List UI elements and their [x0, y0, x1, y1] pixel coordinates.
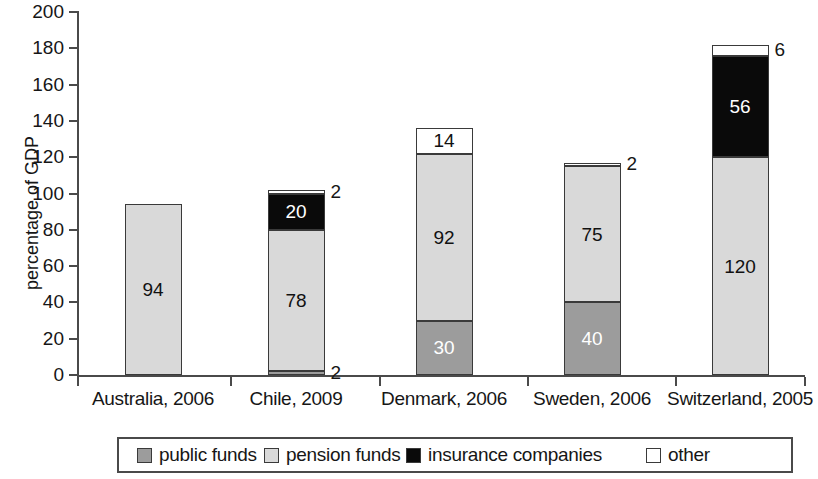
y-axis-tick-label: 140 [0, 110, 64, 132]
legend-item-public[interactable]: public funds [137, 444, 257, 466]
segment-value-label: 30 [433, 338, 454, 357]
segment-value-label: 2 [331, 363, 342, 382]
y-axis-tick-label: 20 [0, 328, 64, 350]
segment-value-label: 2 [627, 154, 638, 173]
x-axis-tick [230, 377, 232, 386]
bar-segment-other[interactable] [712, 45, 769, 56]
plot-area: 947820309214407512056 [78, 12, 805, 375]
bar-segment-pension-funds[interactable]: 78 [268, 230, 325, 372]
bar-segment-pension-funds[interactable]: 94 [125, 204, 182, 375]
x-axis-line [77, 375, 805, 377]
y-axis-tick-label: 100 [0, 183, 64, 205]
bar-segment-public-funds[interactable]: 30 [416, 321, 473, 375]
x-axis-tick [77, 377, 79, 386]
x-axis-tick [675, 377, 677, 386]
legend-swatch-icon [137, 448, 152, 463]
segment-value-label: 40 [581, 329, 602, 348]
y-axis-tick-label: 0 [0, 364, 64, 386]
y-axis-tick-label: 160 [0, 74, 64, 96]
y-axis-tick-label: 180 [0, 37, 64, 59]
legend-item-other[interactable]: other [646, 444, 710, 466]
legend-label: public funds [159, 444, 257, 466]
legend-swatch-icon [406, 448, 421, 463]
bar-segment-insurance-companies[interactable]: 20 [268, 194, 325, 230]
bar-australia-2006[interactable]: 94 [125, 204, 182, 375]
y-axis-tick-label: 200 [0, 1, 64, 23]
x-axis-tick [527, 377, 529, 386]
bar-denmark-2006[interactable]: 309214 [416, 128, 473, 375]
bar-segment-other[interactable] [564, 163, 621, 167]
bar-sweden-2006[interactable]: 4075 [564, 163, 621, 375]
segment-value-label: 75 [581, 225, 602, 244]
legend-item-pension[interactable]: pension funds [264, 444, 400, 466]
segment-value-label: 120 [724, 257, 756, 276]
bar-switzerland-2005[interactable]: 12056 [712, 45, 769, 375]
bar-segment-public-funds[interactable]: 40 [564, 302, 621, 375]
segment-value-label: 2 [331, 182, 342, 201]
segment-value-label: 14 [433, 131, 454, 150]
legend-label: pension funds [286, 444, 400, 466]
legend-swatch-icon [264, 448, 279, 463]
segment-value-label: 78 [285, 291, 306, 310]
legend-label: other [668, 444, 710, 466]
bar-segment-pension-funds[interactable]: 75 [564, 166, 621, 302]
y-axis-tick-label: 60 [0, 255, 64, 277]
bar-segment-pension-funds[interactable]: 92 [416, 154, 473, 321]
x-axis-tick [379, 377, 381, 386]
segment-value-label: 6 [775, 40, 786, 59]
chart-legend: public fundspension fundsinsurance compa… [117, 437, 793, 473]
bar-segment-pension-funds[interactable]: 120 [712, 157, 769, 375]
y-axis-tick-label: 80 [0, 219, 64, 241]
bar-segment-public-funds[interactable] [268, 371, 325, 375]
segment-value-label: 94 [142, 280, 163, 299]
segment-value-label: 56 [729, 97, 750, 116]
legend-swatch-icon [646, 448, 661, 463]
y-axis-tick-label: 120 [0, 146, 64, 168]
bar-segment-other[interactable]: 14 [416, 128, 473, 153]
segment-value-label: 92 [433, 228, 454, 247]
bar-chile-2009[interactable]: 7820 [268, 190, 325, 375]
y-axis-tick-label: 40 [0, 291, 64, 313]
legend-item-insurance[interactable]: insurance companies [406, 444, 602, 466]
x-axis-tick [804, 377, 806, 386]
bar-segment-other[interactable] [268, 190, 325, 194]
legend-label: insurance companies [428, 444, 602, 466]
segment-value-label: 20 [285, 202, 306, 221]
bar-segment-insurance-companies[interactable]: 56 [712, 56, 769, 158]
x-axis-label: Switzerland, 2005 [650, 388, 818, 410]
